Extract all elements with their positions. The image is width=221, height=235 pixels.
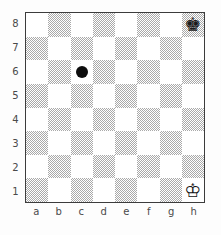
square-e6[interactable] bbox=[115, 60, 137, 84]
square-c1[interactable] bbox=[71, 178, 93, 202]
file-label-b: b bbox=[48, 206, 71, 222]
file-label-g: g bbox=[160, 206, 183, 222]
square-h1[interactable]: ♔ bbox=[182, 178, 204, 202]
square-b6[interactable] bbox=[48, 60, 70, 84]
rank-label-8: 8 bbox=[8, 12, 23, 36]
rank-label-5: 5 bbox=[8, 84, 23, 108]
square-g6[interactable] bbox=[160, 60, 182, 84]
square-h2[interactable] bbox=[182, 155, 204, 179]
square-h7[interactable] bbox=[182, 37, 204, 61]
square-a5[interactable] bbox=[26, 84, 48, 108]
square-b8[interactable] bbox=[48, 13, 70, 37]
file-label-e: e bbox=[115, 206, 138, 222]
square-e1[interactable] bbox=[115, 178, 137, 202]
square-f1[interactable] bbox=[137, 178, 159, 202]
square-b5[interactable] bbox=[48, 84, 70, 108]
file-label-c: c bbox=[70, 206, 93, 222]
rank-label-2: 2 bbox=[8, 155, 23, 179]
square-e4[interactable] bbox=[115, 108, 137, 132]
square-f7[interactable] bbox=[137, 37, 159, 61]
square-e2[interactable] bbox=[115, 155, 137, 179]
black-king-icon[interactable]: ♚ bbox=[182, 13, 204, 37]
square-g7[interactable] bbox=[160, 37, 182, 61]
square-a2[interactable] bbox=[26, 155, 48, 179]
square-c7[interactable] bbox=[71, 37, 93, 61]
square-e3[interactable] bbox=[115, 131, 137, 155]
square-f4[interactable] bbox=[137, 108, 159, 132]
square-b1[interactable] bbox=[48, 178, 70, 202]
chessboard-grid: ♚♔ bbox=[26, 13, 204, 202]
square-g3[interactable] bbox=[160, 131, 182, 155]
square-marker-dot bbox=[76, 66, 88, 78]
square-d2[interactable] bbox=[93, 155, 115, 179]
square-a7[interactable] bbox=[26, 37, 48, 61]
square-h8[interactable]: ♚ bbox=[182, 13, 204, 37]
square-h4[interactable] bbox=[182, 108, 204, 132]
file-label-f: f bbox=[138, 206, 161, 222]
square-g4[interactable] bbox=[160, 108, 182, 132]
square-a3[interactable] bbox=[26, 131, 48, 155]
square-e7[interactable] bbox=[115, 37, 137, 61]
file-label-a: a bbox=[25, 206, 48, 222]
square-d8[interactable] bbox=[93, 13, 115, 37]
square-d5[interactable] bbox=[93, 84, 115, 108]
file-labels: abcdefgh bbox=[25, 206, 205, 222]
square-f5[interactable] bbox=[137, 84, 159, 108]
square-c4[interactable] bbox=[71, 108, 93, 132]
square-c8[interactable] bbox=[71, 13, 93, 37]
square-h5[interactable] bbox=[182, 84, 204, 108]
square-a8[interactable] bbox=[26, 13, 48, 37]
square-f8[interactable] bbox=[137, 13, 159, 37]
square-g1[interactable] bbox=[160, 178, 182, 202]
square-d4[interactable] bbox=[93, 108, 115, 132]
square-b4[interactable] bbox=[48, 108, 70, 132]
square-b2[interactable] bbox=[48, 155, 70, 179]
rank-label-3: 3 bbox=[8, 131, 23, 155]
square-f2[interactable] bbox=[137, 155, 159, 179]
rank-label-1: 1 bbox=[8, 179, 23, 203]
rank-label-4: 4 bbox=[8, 108, 23, 132]
square-e5[interactable] bbox=[115, 84, 137, 108]
square-a1[interactable] bbox=[26, 178, 48, 202]
square-d3[interactable] bbox=[93, 131, 115, 155]
square-c6[interactable] bbox=[71, 60, 93, 84]
chess-diagram-page: ♚♔ 87654321 abcdefgh bbox=[0, 0, 221, 235]
square-g5[interactable] bbox=[160, 84, 182, 108]
square-a6[interactable] bbox=[26, 60, 48, 84]
square-b3[interactable] bbox=[48, 131, 70, 155]
chessboard[interactable]: ♚♔ bbox=[25, 12, 205, 203]
square-c2[interactable] bbox=[71, 155, 93, 179]
file-label-d: d bbox=[93, 206, 116, 222]
square-d7[interactable] bbox=[93, 37, 115, 61]
rank-label-7: 7 bbox=[8, 36, 23, 60]
square-f6[interactable] bbox=[137, 60, 159, 84]
square-d6[interactable] bbox=[93, 60, 115, 84]
square-b7[interactable] bbox=[48, 37, 70, 61]
square-d1[interactable] bbox=[93, 178, 115, 202]
square-c3[interactable] bbox=[71, 131, 93, 155]
square-a4[interactable] bbox=[26, 108, 48, 132]
square-e8[interactable] bbox=[115, 13, 137, 37]
square-g8[interactable] bbox=[160, 13, 182, 37]
white-king-icon[interactable]: ♔ bbox=[182, 178, 204, 202]
file-label-h: h bbox=[183, 206, 206, 222]
square-g2[interactable] bbox=[160, 155, 182, 179]
rank-labels: 87654321 bbox=[8, 12, 23, 203]
square-h3[interactable] bbox=[182, 131, 204, 155]
rank-label-6: 6 bbox=[8, 60, 23, 84]
square-c5[interactable] bbox=[71, 84, 93, 108]
square-h6[interactable] bbox=[182, 60, 204, 84]
square-f3[interactable] bbox=[137, 131, 159, 155]
